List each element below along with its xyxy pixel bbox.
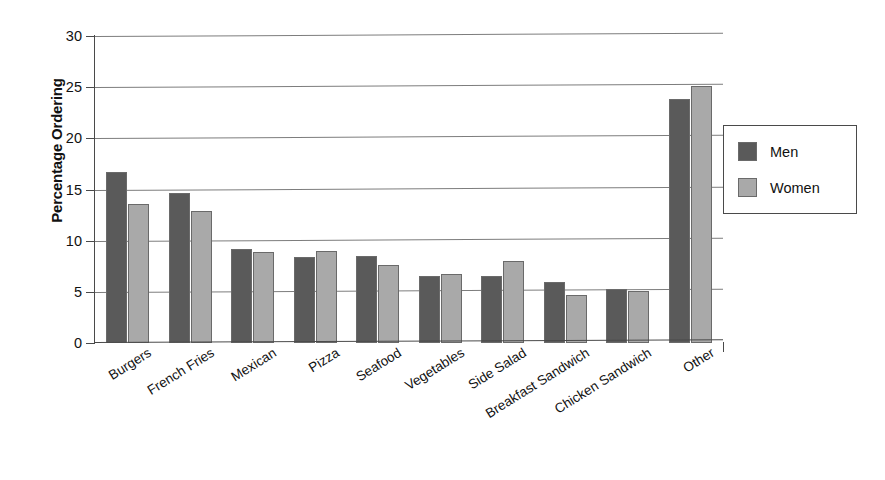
- y-axis-tick-label: 25: [66, 79, 82, 95]
- bar-group: [294, 36, 338, 343]
- bar-group: [231, 36, 275, 343]
- y-axis-tick-label: 15: [66, 182, 82, 198]
- y-axis-line: [94, 35, 95, 344]
- bar-group: [606, 36, 650, 343]
- bar-women: [378, 265, 399, 343]
- bar-group: [669, 36, 713, 343]
- legend-swatch-men: [738, 142, 757, 161]
- x-axis-label: Mexican: [228, 345, 279, 384]
- bar-women: [566, 295, 587, 343]
- legend-label-women: Women: [770, 180, 820, 196]
- bar-group: [169, 36, 213, 343]
- y-axis-tick-label: 0: [74, 335, 82, 351]
- bar-group: [356, 36, 400, 343]
- bar-women: [191, 211, 212, 343]
- bar-men: [169, 193, 190, 343]
- x-axis-labels: BurgersFrench FriesMexicanPizzaSeafoodVe…: [94, 345, 754, 455]
- bar-men: [294, 257, 315, 343]
- bar-women: [628, 291, 649, 343]
- y-axis-tick-label: 10: [66, 233, 82, 249]
- bar-group: [544, 36, 588, 343]
- y-axis-tick: [86, 138, 94, 139]
- plot-area: 051015202530: [94, 36, 723, 343]
- x-axis-label: Seafood: [353, 345, 404, 384]
- y-axis-tick: [86, 343, 94, 344]
- x-axis-label: Breakfast Sandwich: [482, 345, 591, 421]
- bar-group: [481, 36, 525, 343]
- bar-men: [356, 256, 377, 343]
- bar-group: [419, 36, 463, 343]
- legend-swatch-women: [738, 178, 757, 197]
- bar-women: [128, 204, 149, 343]
- legend-item-women: Women: [738, 178, 820, 197]
- bar-men: [669, 99, 690, 343]
- bar-men: [606, 289, 627, 343]
- bar-men: [106, 172, 127, 343]
- bar-women: [691, 86, 712, 343]
- y-axis-title: Percentage Ordering: [48, 31, 65, 271]
- bar-men: [481, 276, 502, 343]
- bar-chart: Percentage Ordering 051015202530 Burgers…: [0, 0, 885, 480]
- y-axis-tick: [86, 87, 94, 88]
- bar-group: [106, 36, 150, 343]
- y-axis-tick: [86, 241, 94, 242]
- bar-women: [253, 252, 274, 343]
- x-axis-label: French Fries: [144, 345, 216, 398]
- y-axis-tick: [86, 190, 94, 191]
- y-axis-tick-label: 20: [66, 130, 82, 146]
- bar-men: [544, 282, 565, 343]
- bar-women: [316, 251, 337, 343]
- y-axis-tick-label: 5: [74, 284, 82, 300]
- bar-women: [503, 261, 524, 343]
- x-axis-label: Pizza: [306, 345, 342, 375]
- bar-women: [441, 274, 462, 343]
- y-axis-tick-label: 30: [66, 28, 82, 44]
- bar-men: [419, 276, 440, 343]
- x-axis-label: Other: [680, 345, 717, 376]
- legend: Men Women: [723, 125, 857, 214]
- y-axis-tick: [86, 292, 94, 293]
- x-axis-label: Burgers: [106, 345, 154, 383]
- y-axis-tick: [86, 36, 94, 37]
- bar-men: [231, 249, 252, 343]
- legend-label-men: Men: [770, 144, 798, 160]
- x-axis-label: Vegetables: [402, 345, 467, 393]
- legend-item-men: Men: [738, 142, 798, 161]
